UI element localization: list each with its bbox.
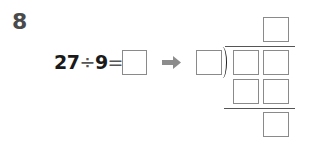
subtraction-line — [224, 108, 295, 109]
dividend: 27 — [54, 51, 79, 73]
right-arrow-icon — [162, 56, 181, 69]
dividend-ones-box[interactable] — [263, 50, 289, 75]
answer-box[interactable] — [122, 50, 147, 75]
remainder-box[interactable] — [263, 112, 289, 137]
quotient-box[interactable] — [263, 17, 289, 42]
divide-operator: ÷ — [79, 51, 94, 73]
dividend-tens-box[interactable] — [233, 50, 259, 75]
problem-number: 8 — [12, 9, 27, 35]
division-bracket — [218, 47, 227, 78]
product-tens-box[interactable] — [233, 79, 259, 104]
equals-sign: = — [108, 51, 123, 73]
divisor: 9 — [95, 51, 108, 73]
division-expression: 27÷9= — [54, 50, 123, 75]
division-bar — [225, 46, 295, 47]
product-ones-box[interactable] — [263, 79, 289, 104]
